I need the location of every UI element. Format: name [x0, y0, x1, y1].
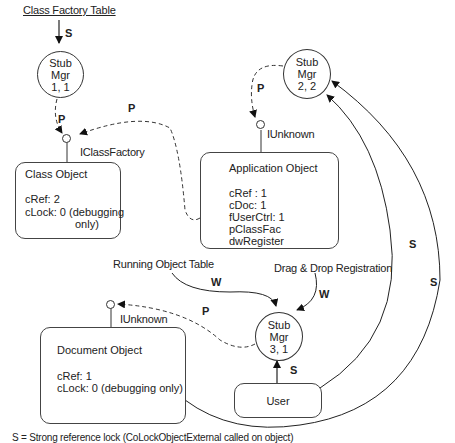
edge-label-s: S: [409, 238, 416, 250]
stub-counts: 1, 1: [51, 81, 69, 93]
field-cdoc: cDoc: 1: [229, 199, 266, 211]
field-pclassfac: pClassFac: [229, 223, 281, 235]
stub-line: Mgr: [270, 331, 289, 343]
application-object-title: Application Object: [229, 162, 318, 174]
arrow-rot-to-stub3: [172, 273, 276, 306]
running-object-table-label: Running Object Table: [113, 258, 214, 270]
edge-label-s: S: [65, 27, 72, 39]
user-label: User: [266, 395, 289, 407]
field-cref: cRef: 2: [25, 193, 60, 205]
class-factory-table-label: Class Factory Table: [23, 4, 116, 16]
edge-label-w: W: [211, 276, 221, 288]
edge-label-p: P: [257, 82, 264, 94]
edge-label-p: P: [202, 305, 209, 317]
interface-lollipop-icon: [256, 120, 265, 129]
interface-label-iunknown-app: IUnknown: [267, 128, 314, 140]
stub-manager-2[interactable]: Stub Mgr 2, 2: [283, 49, 331, 99]
field-dwregister: dwRegister: [229, 235, 284, 247]
edge-label-p: P: [128, 102, 135, 114]
document-object-box[interactable]: Document Object cRef: 1 cLock: 0 (debugg…: [40, 327, 186, 424]
field-clock: cLock: 0 (debugging only): [57, 382, 183, 394]
legend-text: S = Strong reference lock (CoLockObjectE…: [12, 432, 293, 443]
class-object-title: Class Object: [25, 168, 87, 180]
drag-drop-registration-label: Drag & Drop Registration: [274, 262, 392, 274]
edge-label-s: S: [290, 364, 297, 376]
stub-counts: 3, 1: [270, 343, 288, 355]
stub-counts: 2, 2: [298, 80, 316, 92]
stub-manager-1[interactable]: Stub Mgr 1, 1: [37, 51, 84, 98]
stub-line: Stub: [49, 57, 72, 69]
application-object-box[interactable]: Application Object cRef : 1 cDoc: 1 fUse…: [200, 152, 339, 249]
interface-lollipop-icon: [62, 134, 71, 143]
stub-line: Mgr: [298, 68, 317, 80]
field-clock: cLock: 0 (debugging: [25, 206, 124, 218]
field-clock-cont: only): [75, 218, 99, 230]
field-fuserctrl: fUserCtrl: 1: [229, 211, 285, 223]
field-cref: cRef : 1: [229, 187, 267, 199]
edge-label-w: W: [319, 288, 329, 300]
stub-manager-3[interactable]: Stub Mgr 3, 1: [255, 312, 303, 361]
user-box[interactable]: User: [234, 383, 322, 418]
interface-lollipop-icon: [106, 300, 115, 309]
field-cref: cRef: 1: [57, 370, 92, 382]
interface-label-iunknown-doc: IUnknown: [120, 313, 167, 325]
document-object-title: Document Object: [57, 344, 142, 356]
arrow-dd-to-stub3: [297, 273, 317, 310]
class-object-box[interactable]: Class Object cRef: 2 cLock: 0 (debugging…: [15, 162, 121, 239]
stub-line: Stub: [296, 56, 319, 68]
interface-label-iclassfactory: IClassFactory: [80, 146, 145, 158]
stub-line: Mgr: [51, 69, 70, 81]
edge-label-s: S: [430, 276, 437, 288]
edge-label-p: P: [58, 113, 65, 125]
stub-line: Stub: [268, 319, 291, 331]
